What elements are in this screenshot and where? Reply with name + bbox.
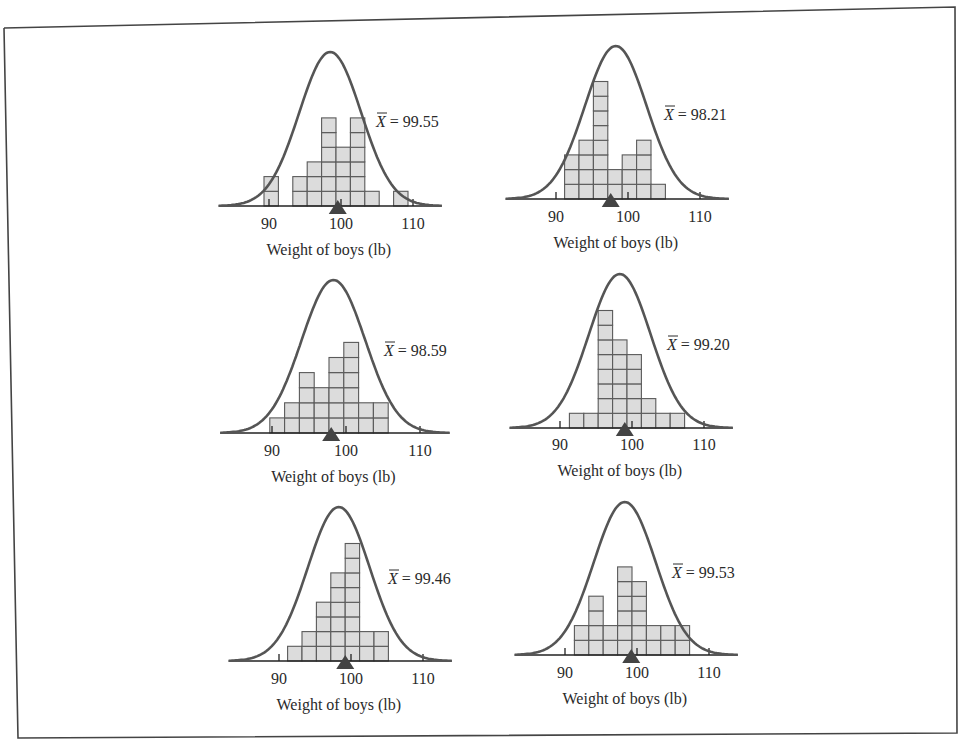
histogram-box	[593, 170, 607, 185]
x-tick-label: 110	[697, 664, 720, 681]
histogram-box	[569, 413, 583, 428]
histogram-box	[350, 191, 364, 206]
figure-canvas: 90100110X = 99.55Weight of boys (lb)9010…	[0, 0, 967, 740]
x-tick-label: 110	[692, 436, 715, 453]
histogram-box	[565, 184, 579, 199]
histogram-box	[622, 170, 636, 185]
histogram-box	[314, 388, 329, 403]
histogram-box	[598, 384, 612, 399]
histogram-box	[598, 311, 612, 326]
histogram-box	[565, 170, 579, 185]
histogram-box	[302, 646, 316, 661]
histogram-panel-6: 90100110X = 99.53Weight of boys (lb)	[515, 502, 738, 708]
x-axis-label: Weight of boys (lb)	[558, 462, 682, 480]
histogram-box	[302, 632, 316, 647]
histogram-box	[589, 626, 603, 641]
mean-label: X = 98.21	[663, 106, 727, 123]
histogram-box	[646, 626, 660, 641]
histogram-box	[331, 617, 345, 632]
histogram-box	[661, 626, 675, 641]
histogram-box	[584, 413, 598, 428]
histogram-box	[598, 413, 612, 428]
histogram-box	[316, 632, 330, 647]
x-axis-label: Weight of boys (lb)	[267, 241, 391, 259]
mean-label: X = 99.53	[671, 564, 735, 581]
histogram-box	[373, 418, 388, 433]
histogram-box	[603, 626, 617, 641]
histogram-box	[316, 602, 330, 617]
histogram-box	[264, 191, 278, 206]
histogram-box	[593, 155, 607, 170]
histogram-box	[359, 403, 374, 418]
histogram-panel-2: 90100110X = 98.21Weight of boys (lb)	[506, 46, 729, 252]
histogram-box	[618, 611, 632, 626]
x-tick-label: 90	[264, 442, 280, 459]
histogram-box	[374, 632, 388, 647]
histogram-box	[322, 147, 336, 162]
histogram-box	[641, 399, 655, 414]
histogram-box	[613, 369, 627, 384]
histogram-box	[288, 646, 302, 661]
histogram-box	[345, 573, 359, 588]
mean-label: X = 99.55	[375, 113, 439, 130]
histogram-box	[627, 399, 641, 414]
histogram-panel-3: 90100110X = 98.59Weight of boys (lb)	[220, 280, 449, 486]
x-tick-label: 110	[411, 670, 434, 687]
histogram-box	[345, 558, 359, 573]
histogram-box	[344, 403, 359, 418]
x-tick-label: 100	[329, 215, 353, 232]
histogram-box	[316, 646, 330, 661]
histogram-box	[627, 355, 641, 370]
histogram-box	[316, 617, 330, 632]
x-axis-label: Weight of boys (lb)	[554, 234, 678, 252]
histogram-box	[646, 640, 660, 655]
histogram-box	[374, 646, 388, 661]
histogram-box	[589, 596, 603, 611]
x-tick-label: 110	[408, 442, 431, 459]
x-tick-label: 90	[548, 208, 564, 225]
histogram-box	[589, 611, 603, 626]
histogram-box	[344, 358, 359, 373]
mean-label: X = 99.46	[387, 570, 451, 587]
histogram-box	[613, 399, 627, 414]
histogram-box	[670, 413, 684, 428]
histogram-box	[618, 596, 632, 611]
histogram-box	[322, 177, 336, 192]
histogram-box	[574, 640, 588, 655]
histogram-box	[598, 399, 612, 414]
histogram-box	[656, 413, 670, 428]
x-tick-label: 90	[261, 215, 277, 232]
histogram-box	[661, 640, 675, 655]
histogram-box	[593, 140, 607, 155]
x-tick-label: 100	[616, 208, 640, 225]
histogram-box	[331, 573, 345, 588]
histogram-box	[307, 191, 321, 206]
histogram-box	[331, 602, 345, 617]
histogram-box	[344, 373, 359, 388]
histogram-box	[632, 626, 646, 641]
histogram-box	[322, 133, 336, 148]
histogram-box	[329, 403, 344, 418]
x-tick-label: 100	[620, 436, 644, 453]
histogram-box	[331, 588, 345, 603]
histogram-box	[360, 632, 374, 647]
histogram-box	[322, 162, 336, 177]
x-tick-label: 110	[688, 208, 711, 225]
x-tick-label: 100	[339, 670, 363, 687]
histogram-box	[336, 177, 350, 192]
histogram-box	[329, 388, 344, 403]
histogram-box	[365, 191, 379, 206]
histogram-box	[350, 147, 364, 162]
histogram-box	[632, 611, 646, 626]
mean-label: X = 99.20	[666, 336, 730, 353]
figure-frame	[4, 7, 957, 738]
x-tick-label: 90	[552, 436, 568, 453]
histogram-box	[632, 596, 646, 611]
histogram-box	[593, 96, 607, 111]
histogram-box	[579, 170, 593, 185]
histogram-box	[345, 617, 359, 632]
histogram-box	[350, 133, 364, 148]
x-tick-label: 110	[401, 215, 424, 232]
histogram-box	[641, 413, 655, 428]
histogram-box	[675, 640, 689, 655]
